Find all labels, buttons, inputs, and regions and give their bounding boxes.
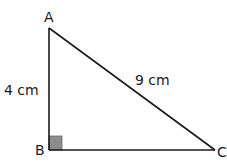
vertex-label-c: C — [217, 144, 227, 160]
side-ac — [49, 28, 215, 150]
triangle-diagram: A B C 4 cm 9 cm — [0, 0, 227, 166]
vertex-label-a: A — [44, 9, 54, 25]
right-angle-marker — [49, 136, 62, 150]
side-label-ac: 9 cm — [135, 72, 170, 88]
vertex-label-b: B — [35, 142, 45, 158]
side-label-ab: 4 cm — [4, 82, 39, 98]
